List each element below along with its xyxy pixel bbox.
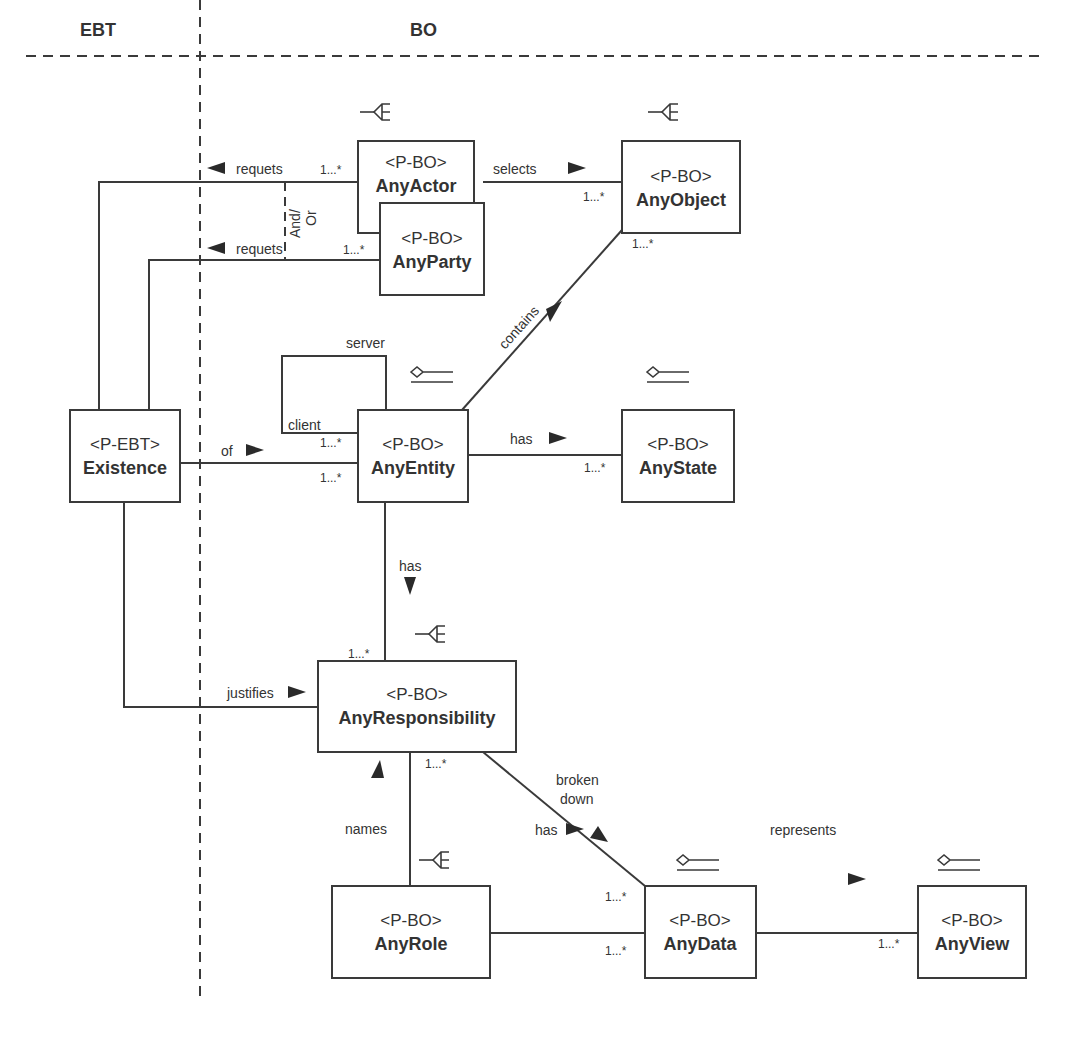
arrow-right-icon: [246, 444, 264, 456]
arrow-right-icon: [288, 686, 306, 698]
svg-text:<P-EBT>: <P-EBT>: [90, 435, 160, 454]
crowsfoot-icon: [419, 852, 449, 868]
aggregation-icon: [411, 367, 453, 382]
svg-text:1...*: 1...*: [583, 190, 605, 204]
label-has: has: [535, 822, 558, 838]
svg-text:1...*: 1...*: [348, 647, 370, 661]
label-has: has: [510, 431, 533, 447]
svg-text:<P-BO>: <P-BO>: [941, 911, 1002, 930]
aggregation-icon: [938, 855, 980, 870]
svg-text:AnyRole: AnyRole: [374, 934, 447, 954]
diagram-canvas: EBT BO: [0, 0, 1067, 1038]
svg-text:Existence: Existence: [83, 458, 167, 478]
svg-text:1...*: 1...*: [878, 937, 900, 951]
class-any-state[interactable]: <P-BO> AnyState: [622, 410, 734, 502]
svg-text:AnyData: AnyData: [663, 934, 737, 954]
label-has: has: [399, 558, 422, 574]
aggregation-icon: [647, 367, 689, 382]
svg-text:AnyObject: AnyObject: [636, 190, 726, 210]
label-selects: selects: [493, 161, 537, 177]
svg-text:1...*: 1...*: [632, 237, 654, 251]
svg-text:AnyEntity: AnyEntity: [371, 458, 455, 478]
arrow-right-icon: [568, 162, 586, 174]
crowsfoot-icon: [360, 104, 390, 120]
svg-text:<P-BO>: <P-BO>: [385, 153, 446, 172]
svg-text:1...*: 1...*: [605, 944, 627, 958]
label-server: server: [346, 335, 385, 351]
svg-text:AnyResponsibility: AnyResponsibility: [338, 708, 495, 728]
label-represents: represents: [770, 822, 836, 838]
class-any-party[interactable]: <P-BO> AnyParty: [380, 203, 484, 295]
svg-text:<P-BO>: <P-BO>: [650, 167, 711, 186]
label-broken-down: broken: [556, 772, 599, 788]
svg-text:1...*: 1...*: [425, 757, 447, 771]
svg-text:<P-BO>: <P-BO>: [380, 911, 441, 930]
association-labels: requets requets And/ Or selects contains…: [221, 161, 836, 838]
arrow-right-icon: [549, 432, 567, 444]
lane-header-ebt: EBT: [80, 20, 116, 40]
svg-text:AnyParty: AnyParty: [392, 252, 471, 272]
lane-header-bo: BO: [410, 20, 437, 40]
svg-text:<P-BO>: <P-BO>: [382, 435, 443, 454]
svg-text:AnyActor: AnyActor: [375, 176, 456, 196]
label-names: names: [345, 821, 387, 837]
crowsfoot-icon: [415, 626, 445, 642]
class-any-responsibility[interactable]: <P-BO> AnyResponsibility: [318, 661, 516, 752]
svg-text:AnyView: AnyView: [935, 934, 1011, 954]
class-existence[interactable]: <P-EBT> Existence: [70, 410, 180, 502]
svg-text:1...*: 1...*: [320, 471, 342, 485]
connectors: [99, 182, 918, 933]
arrow-left-icon: [207, 162, 225, 174]
arrow-diagonal-icon: [546, 301, 562, 322]
svg-text:1...*: 1...*: [320, 163, 342, 177]
arrow-up-icon: [371, 760, 384, 778]
class-any-entity[interactable]: <P-BO> AnyEntity: [358, 410, 468, 502]
svg-text:1...*: 1...*: [605, 890, 627, 904]
arrow-right-icon: [848, 873, 866, 885]
svg-text:<P-BO>: <P-BO>: [669, 911, 730, 930]
label-and-or: Or: [303, 210, 319, 226]
crowsfoot-icon: [648, 104, 678, 120]
label-requets: requets: [236, 161, 283, 177]
class-any-view[interactable]: <P-BO> AnyView: [918, 886, 1026, 978]
svg-text:<P-BO>: <P-BO>: [647, 435, 708, 454]
label-and-or: And/: [287, 209, 303, 238]
label-client: client: [288, 417, 321, 433]
label-of: of: [221, 443, 233, 459]
class-any-object[interactable]: <P-BO> AnyObject: [622, 141, 740, 233]
label-requets: requets: [236, 241, 283, 257]
direction-arrows: [207, 162, 866, 885]
svg-text:AnyState: AnyState: [639, 458, 717, 478]
arrow-left-icon: [207, 242, 225, 254]
label-justifies: justifies: [226, 685, 274, 701]
svg-text:1...*: 1...*: [584, 461, 606, 475]
class-any-data[interactable]: <P-BO> AnyData: [645, 886, 756, 978]
svg-text:<P-BO>: <P-BO>: [401, 229, 462, 248]
class-any-role[interactable]: <P-BO> AnyRole: [332, 886, 490, 978]
arrow-down-icon: [404, 577, 416, 595]
arrow-diagonal-icon: [590, 826, 608, 842]
svg-text:1...*: 1...*: [343, 243, 365, 257]
label-broken-down: down: [560, 791, 593, 807]
svg-text:1...*: 1...*: [320, 436, 342, 450]
svg-text:<P-BO>: <P-BO>: [386, 685, 447, 704]
aggregation-icon: [677, 855, 719, 870]
